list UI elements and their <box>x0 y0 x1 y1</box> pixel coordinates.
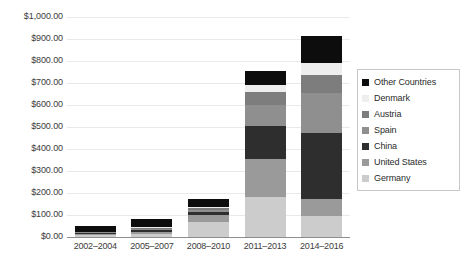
stacked-bar[interactable] <box>131 219 172 237</box>
legend-item[interactable]: China <box>362 138 455 154</box>
bar-segment[interactable] <box>301 36 342 64</box>
y-axis-tick-label: $400.00 <box>31 144 63 153</box>
stacked-bar[interactable] <box>188 199 229 237</box>
bar-segment[interactable] <box>131 219 172 227</box>
bar-slot <box>293 17 350 237</box>
plot-area <box>67 17 350 237</box>
legend-swatch-icon <box>362 175 369 182</box>
legend-item[interactable]: United States <box>362 154 455 170</box>
bar-slot <box>180 17 237 237</box>
y-axis-tick-label: $0.00 <box>41 232 63 241</box>
axis-baseline <box>67 237 350 238</box>
bar-segment[interactable] <box>245 126 286 159</box>
legend-item[interactable]: Germany <box>362 170 455 186</box>
y-axis-tick-label: $100.00 <box>31 210 63 219</box>
legend-item[interactable]: Denmark <box>362 90 455 106</box>
y-axis-tick-label: $1,000.00 <box>24 12 63 21</box>
x-axis-tick-label: 2011–2013 <box>237 241 294 265</box>
legend-item[interactable]: Spain <box>362 122 455 138</box>
bar-slot <box>237 17 294 237</box>
bar-segment[interactable] <box>301 93 342 133</box>
y-axis-tick-label: $700.00 <box>31 78 63 87</box>
legend-swatch-icon <box>362 79 369 86</box>
bar-segment[interactable] <box>245 85 286 92</box>
y-axis-tick-label: $300.00 <box>31 166 63 175</box>
bar-slot <box>67 17 124 237</box>
x-axis-tick-label: 2005–2007 <box>124 241 181 265</box>
bar-segment[interactable] <box>301 199 342 217</box>
bar-segment[interactable] <box>245 197 286 237</box>
legend-swatch-icon <box>362 159 369 166</box>
y-axis-tick-label: $200.00 <box>31 188 63 197</box>
y-axis: $1,000.00$900.00$800.00$700.00$600.00$50… <box>0 0 67 254</box>
legend-item-label: Spain <box>374 125 397 135</box>
bar-segment[interactable] <box>245 92 286 105</box>
bar-slot <box>124 17 181 237</box>
legend-item-label: Austria <box>374 109 401 119</box>
legend-item-label: Denmark <box>374 93 410 103</box>
chart-legend: Other CountriesDenmarkAustriaSpainChinaU… <box>357 69 460 191</box>
legend-item-label: Germany <box>374 173 410 183</box>
x-axis-tick-label: 2014–2016 <box>293 241 350 265</box>
bar-segment[interactable] <box>131 234 172 237</box>
bar-segment[interactable] <box>245 159 286 198</box>
bar-segment[interactable] <box>301 133 342 199</box>
y-axis-tick-label: $800.00 <box>31 56 63 65</box>
bar-group <box>67 17 350 237</box>
legend-item[interactable]: Other Countries <box>362 74 455 90</box>
bar-segment[interactable] <box>75 235 116 237</box>
stacked-bar[interactable] <box>75 226 116 237</box>
legend-item[interactable]: Austria <box>362 106 455 122</box>
bar-segment[interactable] <box>301 75 342 93</box>
legend-swatch-icon <box>362 143 369 150</box>
legend-item-label: Other Countries <box>374 77 436 87</box>
legend-swatch-icon <box>362 95 369 102</box>
x-axis-tick-label: 2002–2004 <box>67 241 124 265</box>
bar-segment[interactable] <box>245 105 286 126</box>
legend-item-label: United States <box>374 157 427 167</box>
y-axis-tick-label: $900.00 <box>31 34 63 43</box>
x-axis: 2002–20042005–20072008–20102011–20132014… <box>67 241 350 265</box>
bar-segment[interactable] <box>188 222 229 237</box>
x-axis-tick-label: 2008–2010 <box>180 241 237 265</box>
bar-segment[interactable] <box>188 215 229 222</box>
bar-segment[interactable] <box>245 71 286 85</box>
legend-swatch-icon <box>362 111 369 118</box>
y-axis-tick-label: $500.00 <box>31 122 63 131</box>
bar-segment[interactable] <box>188 199 229 208</box>
stacked-bar[interactable] <box>301 36 342 237</box>
bar-segment[interactable] <box>301 216 342 237</box>
bar-segment[interactable] <box>301 63 342 75</box>
stacked-bar-chart: $1,000.00$900.00$800.00$700.00$600.00$50… <box>0 0 464 267</box>
legend-item-label: China <box>374 141 397 151</box>
stacked-bar[interactable] <box>245 71 286 237</box>
legend-swatch-icon <box>362 127 369 134</box>
y-axis-tick-label: $600.00 <box>31 100 63 109</box>
